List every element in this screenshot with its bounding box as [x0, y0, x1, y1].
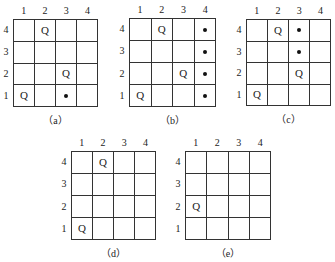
board-cell	[93, 218, 114, 240]
board-cell	[195, 63, 217, 85]
board-cell	[268, 85, 289, 107]
board-cell	[173, 19, 195, 41]
row-label: 2	[59, 202, 69, 212]
board-cell	[310, 42, 331, 64]
board-cell	[152, 41, 174, 63]
board-cell	[289, 85, 310, 107]
board-cell	[72, 174, 93, 196]
board-caption: （b）	[153, 116, 193, 126]
board-cell	[173, 85, 195, 107]
board-cell	[114, 196, 135, 218]
column-label: 3	[114, 138, 134, 148]
board-cell: Q	[173, 63, 195, 85]
column-label: 2	[35, 6, 55, 16]
board-cell	[186, 174, 207, 196]
board-cell	[250, 174, 271, 196]
board-cell	[310, 85, 331, 107]
row-label: 1	[234, 90, 244, 100]
queen-marker: Q	[179, 68, 187, 79]
board-cell	[35, 64, 56, 86]
board-cell	[14, 42, 35, 64]
column-label: 1	[72, 138, 92, 148]
board-cell	[135, 152, 156, 174]
column-label: 1	[130, 5, 150, 15]
row-label: 1	[59, 224, 69, 234]
board-cell	[268, 42, 289, 64]
column-label: 4	[250, 138, 270, 148]
column-label: 3	[56, 6, 76, 16]
board-cell	[130, 19, 152, 41]
board-cell	[247, 63, 268, 85]
queen-marker: Q	[253, 89, 261, 100]
attempted-position-dot-icon	[297, 50, 301, 54]
board-caption: （e）	[208, 249, 248, 259]
row-label: 3	[173, 179, 183, 189]
board-cell	[186, 152, 207, 174]
board-cell	[93, 196, 114, 218]
board-cell	[14, 64, 35, 86]
row-label: 3	[1, 47, 11, 57]
board-cell	[195, 41, 217, 63]
board-cell: Q	[152, 19, 174, 41]
board-cell	[35, 42, 56, 64]
board-cell	[207, 174, 228, 196]
row-label: 3	[117, 46, 127, 56]
row-label: 2	[173, 202, 183, 212]
board-cell: Q	[130, 85, 152, 107]
attempted-position-dot-icon	[203, 94, 207, 98]
column-label: 2	[268, 6, 288, 16]
board-cell	[135, 218, 156, 240]
column-label: 3	[229, 138, 249, 148]
board-cell	[114, 174, 135, 196]
board-cell	[250, 152, 271, 174]
board-cell: Q	[186, 196, 207, 218]
board-cell	[152, 63, 174, 85]
board-cell: Q	[268, 20, 289, 42]
column-label: 4	[310, 6, 330, 16]
queen-marker: Q	[136, 90, 144, 101]
board-cell	[130, 63, 152, 85]
board-cell	[114, 152, 135, 174]
board-cell	[130, 41, 152, 63]
attempted-position-dot-icon	[203, 28, 207, 32]
board-cell	[247, 42, 268, 64]
column-label: 3	[173, 5, 193, 15]
queen-marker: Q	[41, 25, 49, 36]
board-cell	[268, 63, 289, 85]
board-cell	[207, 152, 228, 174]
column-label: 4	[135, 138, 155, 148]
board-cell: Q	[289, 63, 310, 85]
attempted-position-dot-icon	[64, 94, 68, 98]
attempted-position-dot-icon	[203, 50, 207, 54]
board-cell	[173, 41, 195, 63]
board-cell: Q	[247, 85, 268, 107]
row-label: 4	[1, 25, 11, 35]
board-cell: Q	[35, 20, 56, 42]
row-label: 4	[59, 157, 69, 167]
column-label: 1	[247, 6, 267, 16]
board-cell	[207, 196, 228, 218]
board-cell	[77, 20, 98, 42]
board-cell	[310, 20, 331, 42]
column-label: 4	[77, 6, 97, 16]
board-cell	[93, 174, 114, 196]
board-cell	[35, 85, 56, 107]
row-label: 4	[117, 24, 127, 34]
column-label: 2	[152, 5, 172, 15]
board-cell	[114, 218, 135, 240]
column-label: 3	[289, 6, 309, 16]
row-label: 1	[1, 91, 11, 101]
board-cell	[77, 64, 98, 86]
queen-marker: Q	[274, 25, 282, 36]
board-cell	[229, 218, 250, 240]
row-label: 2	[117, 69, 127, 79]
queen-marker: Q	[20, 90, 28, 101]
board-cell: Q	[93, 152, 114, 174]
row-label: 3	[59, 179, 69, 189]
column-label: 2	[207, 138, 227, 148]
queen-marker: Q	[78, 223, 86, 234]
board-cell	[56, 20, 77, 42]
board-cell	[289, 42, 310, 64]
board-cell	[186, 218, 207, 240]
board-cell	[77, 42, 98, 64]
